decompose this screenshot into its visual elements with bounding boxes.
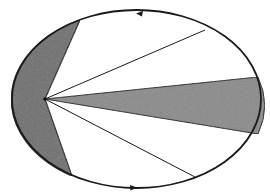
orbit-diagram xyxy=(0,0,270,194)
top-direction-arrow-icon xyxy=(136,11,143,17)
orbit-svg xyxy=(0,0,270,194)
bottom-direction-arrow-icon xyxy=(130,185,137,191)
far-sector-shaded-area xyxy=(45,77,265,134)
focus-point xyxy=(43,97,47,101)
